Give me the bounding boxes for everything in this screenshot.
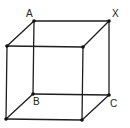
cube-diagram: A X B C (0, 0, 130, 128)
edge-front-bottom (6, 119, 82, 120)
edge-front-right (82, 47, 83, 120)
label-B: B (33, 96, 40, 107)
vertex-A (32, 19, 36, 23)
edge-A-B (33, 21, 34, 94)
edge-X-front-top-right (83, 21, 109, 47)
edge-front-left (6, 46, 7, 119)
edge-C-front-bottom-right (82, 95, 109, 120)
vertex-front-bottom-left (4, 117, 8, 121)
edge-front-top (7, 46, 83, 47)
vertex-front-top-right (81, 45, 85, 49)
edge-B-C (33, 94, 109, 95)
vertex-front-top-left (5, 44, 9, 48)
edge-A-front-top-left (7, 21, 34, 46)
label-X: X (112, 8, 119, 19)
edge-B-front-bottom-left (6, 94, 33, 119)
label-A: A (26, 8, 33, 19)
label-C: C (110, 98, 117, 109)
vertex-X (107, 19, 111, 23)
vertex-front-bottom-right (80, 118, 84, 122)
vertex-C (107, 93, 111, 97)
